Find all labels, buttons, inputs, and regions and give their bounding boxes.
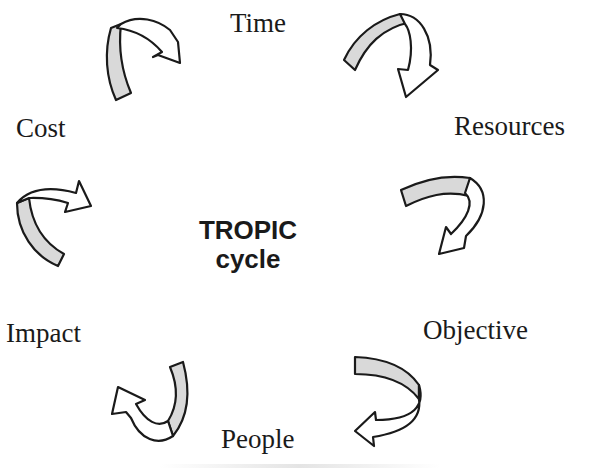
curved-arrow-icon xyxy=(107,19,180,100)
center-title: TROPIC cycle xyxy=(188,216,308,273)
cropped-caption-remnant xyxy=(160,464,440,468)
center-title-line2: cycle xyxy=(188,245,308,274)
node-label-time: Time xyxy=(230,10,286,37)
curved-arrow-icon xyxy=(355,357,421,446)
tropic-cycle-diagram: Time Resources Objective People Impact C… xyxy=(0,0,593,474)
node-label-people: People xyxy=(221,426,295,453)
center-title-line1: TROPIC xyxy=(188,216,308,245)
curved-arrow-icon xyxy=(344,14,438,97)
curved-arrow-icon xyxy=(112,362,187,441)
node-label-resources: Resources xyxy=(454,113,565,140)
curved-arrow-icon xyxy=(17,181,91,266)
node-label-objective: Objective xyxy=(423,317,528,344)
node-label-cost: Cost xyxy=(16,115,66,142)
curved-arrow-icon xyxy=(401,177,484,254)
node-label-impact: Impact xyxy=(6,320,81,347)
